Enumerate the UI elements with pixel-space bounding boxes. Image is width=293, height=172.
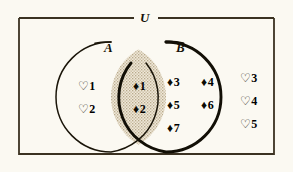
universal-set-label: U [140,11,150,24]
element-item: ♡ 3 [240,72,257,84]
element-item: ♦ 2 [133,103,146,115]
element-item: ♡ 5 [240,118,257,130]
region-b-only: ♦ 3 ♦ 4 ♦ 5 ♦ 6 ♦ 7 [167,76,235,134]
heart-outline-icon: ♡ [78,103,89,115]
diamond-filled-icon: ♦ [167,122,173,134]
element-item: ♡ 1 [78,80,95,92]
element-number: 2 [89,103,95,115]
element-item: ♡ 2 [78,103,95,115]
region-a-only: ♡ 1 ♡ 2 [78,80,95,126]
set-b-label: B [176,41,185,54]
venn-diagram-figure: U A B ♡ 1 ♡ 2 ♦ 1 ♦ 2 ♦ 3 ♦ [0,0,293,172]
element-number: 7 [174,122,180,134]
element-number: 5 [174,99,180,111]
element-number: 6 [208,99,214,111]
diamond-filled-icon: ♦ [133,103,139,115]
element-item: ♦ 4 [201,76,235,88]
element-number: 4 [208,76,214,88]
diamond-filled-icon: ♦ [201,76,207,88]
heart-outline-icon: ♡ [240,118,251,130]
region-intersection: ♦ 1 ♦ 2 [133,80,146,126]
diamond-filled-icon: ♦ [201,99,207,111]
heart-outline-icon: ♡ [78,80,89,92]
element-number: 1 [89,80,95,92]
element-item: ♦ 7 [167,122,201,134]
region-outside: ♡ 3 ♡ 4 ♡ 5 [240,72,257,141]
element-number: 1 [140,80,146,92]
element-number: 3 [251,72,257,84]
element-item: ♦ 3 [167,76,201,88]
element-item: ♡ 4 [240,95,257,107]
heart-outline-icon: ♡ [240,95,251,107]
diamond-filled-icon: ♦ [167,76,173,88]
element-number: 3 [174,76,180,88]
element-item: ♦ 5 [167,99,201,111]
element-number: 5 [251,118,257,130]
element-item: ♦ 6 [201,99,235,111]
diamond-filled-icon: ♦ [167,99,173,111]
diamond-filled-icon: ♦ [133,80,139,92]
set-a-label: A [104,41,113,54]
element-number: 4 [251,95,257,107]
heart-outline-icon: ♡ [240,72,251,84]
element-item: ♦ 1 [133,80,146,92]
element-number: 2 [140,103,146,115]
